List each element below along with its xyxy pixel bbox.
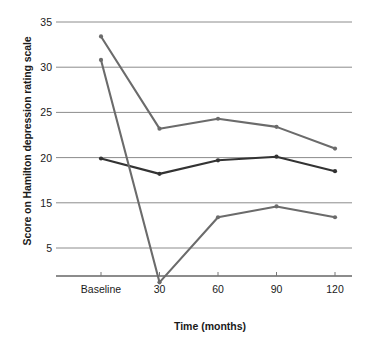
data-point-marker xyxy=(274,204,278,208)
data-point-marker xyxy=(333,215,337,219)
data-point-marker xyxy=(157,127,161,131)
data-point-marker xyxy=(99,156,103,160)
data-point-marker xyxy=(333,169,337,173)
data-point-marker xyxy=(216,215,220,219)
data-point-marker xyxy=(157,172,161,176)
data-point-marker xyxy=(333,146,337,150)
data-point-marker xyxy=(99,58,103,62)
data-point-marker xyxy=(274,125,278,129)
line-chart: Score on Hamilton depression rating scal… xyxy=(0,0,367,344)
data-point-marker xyxy=(216,158,220,162)
data-point-marker xyxy=(274,155,278,159)
plot-area xyxy=(0,0,367,344)
data-point-marker xyxy=(157,280,161,284)
series-line xyxy=(101,36,335,148)
data-point-marker xyxy=(216,117,220,121)
data-series-group xyxy=(99,34,337,284)
data-point-marker xyxy=(99,34,103,38)
gridlines xyxy=(56,22,352,248)
axis-lines xyxy=(56,272,352,276)
